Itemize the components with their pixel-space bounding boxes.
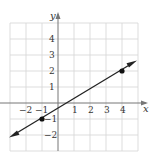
y-tick: 4 <box>49 34 55 44</box>
x-tick: −2 <box>19 105 32 115</box>
y-tick: −2 <box>44 130 57 140</box>
x-tick: 4 <box>120 105 126 115</box>
x-tick: 1 <box>72 105 78 115</box>
graph-line <box>15 64 131 134</box>
y-axis-arrow-icon <box>56 12 61 19</box>
x-tick: 3 <box>104 105 110 115</box>
x-axis-label: x <box>143 103 149 114</box>
grid <box>10 23 138 151</box>
point-4-2 <box>119 68 124 73</box>
coordinate-plane: y x −2 −1 1 2 3 4 4 3 2 1 −1 −2 <box>0 0 157 161</box>
y-axis-label: y <box>49 10 56 21</box>
y-tick: 1 <box>49 82 55 92</box>
x-tick: 2 <box>88 105 94 115</box>
y-tick: 2 <box>49 66 55 76</box>
point-neg1-neg1 <box>39 116 44 121</box>
y-tick: 3 <box>49 50 55 60</box>
